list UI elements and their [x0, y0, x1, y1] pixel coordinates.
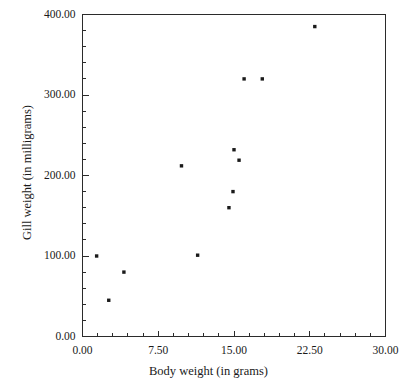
data-point	[122, 270, 125, 273]
x-axis-title: Body weight (in grams)	[0, 364, 417, 379]
data-point	[313, 25, 316, 28]
scatter-plot-figure: 0.00100.00200.00300.00400.00 0.007.5015.…	[0, 0, 417, 389]
data-point	[231, 190, 234, 193]
x-tick-label: 22.50	[280, 345, 340, 357]
data-point	[196, 254, 199, 257]
data-point	[232, 148, 235, 151]
x-tick-label: 7.50	[128, 345, 188, 357]
y-axis-title: Gill weight (in milligrams)	[20, 58, 35, 288]
data-point	[242, 77, 245, 80]
y-tick-label: 0.00	[18, 331, 76, 343]
data-point	[107, 299, 110, 302]
axes-frame	[83, 15, 386, 337]
data-point	[227, 206, 230, 209]
y-tick-label: 400.00	[18, 9, 76, 21]
x-tick-label: 0.00	[53, 345, 113, 357]
x-tick-label: 15.00	[204, 345, 264, 357]
data-point	[180, 164, 183, 167]
axes-box	[83, 15, 386, 337]
data-point	[95, 254, 98, 257]
axis-ticks	[83, 15, 386, 337]
data-point	[237, 159, 240, 162]
data-point	[261, 77, 264, 80]
x-tick-label: 30.00	[356, 345, 416, 357]
data-points	[95, 25, 317, 302]
